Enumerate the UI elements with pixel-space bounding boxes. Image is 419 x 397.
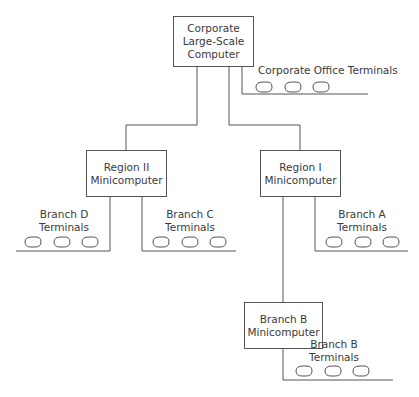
node-corporate-computer: Corporate Large-Scale Computer: [173, 16, 254, 67]
node-label-line: Minicomputer: [247, 326, 319, 339]
node-label-line: Minicomputer: [90, 174, 162, 187]
node-label-line: Region II: [104, 161, 149, 174]
node-label-line: Corporate: [187, 22, 240, 35]
label-line: Terminals: [34, 221, 94, 234]
terminal-group-branch-b: [296, 366, 369, 376]
label-line: Terminals: [304, 351, 364, 364]
label-branch-d-terminals: Branch D Terminals: [34, 208, 94, 234]
terminal-group-corporate-office: [256, 82, 329, 92]
node-label-line: Region I: [279, 161, 321, 174]
label-line: Terminals: [160, 221, 220, 234]
node-region-2-minicomputer: Region II Minicomputer: [86, 150, 167, 197]
node-label-line: Minicomputer: [264, 174, 336, 187]
node-label-line: Large-Scale: [183, 35, 245, 48]
node-label-line: Branch B: [260, 313, 308, 326]
label-line: Terminals: [332, 221, 392, 234]
node-label-line: Computer: [187, 48, 239, 61]
label-line: Branch A: [332, 208, 392, 221]
label-line: Branch D: [34, 208, 94, 221]
node-region-1-minicomputer: Region I Minicomputer: [260, 150, 341, 197]
label-line: Branch B: [304, 338, 364, 351]
terminal-group-branch-a: [326, 237, 399, 247]
terminal-group-branch-c: [153, 237, 226, 247]
label-branch-c-terminals: Branch C Terminals: [160, 208, 220, 234]
label-line: Branch C: [160, 208, 220, 221]
label-branch-a-terminals: Branch A Terminals: [332, 208, 392, 234]
label-corporate-office-terminals: Corporate Office Terminals: [258, 64, 398, 77]
terminal-group-branch-d: [25, 237, 98, 247]
label-branch-b-terminals: Branch B Terminals: [304, 338, 364, 364]
